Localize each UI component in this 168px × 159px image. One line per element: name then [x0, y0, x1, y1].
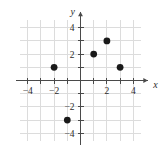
x-tick-label: −4: [23, 86, 33, 96]
coordinate-plane-svg: −4−224−4−224 xy: [0, 0, 168, 159]
x-tick-label: 4: [131, 86, 136, 96]
y-tick-label: −4: [64, 129, 74, 139]
x-tick-label: −2: [49, 86, 59, 96]
y-axis-arrow: [78, 12, 83, 17]
scatter-plot-figure: −4−224−4−224 xy: [0, 0, 168, 159]
x-tick-label: 2: [105, 86, 110, 96]
x-axis-arrow: [143, 78, 148, 83]
axes-layer: [16, 12, 148, 145]
y-axis-name: y: [70, 6, 76, 17]
data-point: [51, 64, 58, 71]
axis-names-layer: xy: [70, 6, 159, 90]
data-point: [104, 38, 111, 45]
data-point: [64, 117, 71, 124]
data-point: [117, 64, 124, 71]
data-point: [90, 51, 97, 58]
y-tick-label: −2: [64, 102, 74, 112]
x-axis-name: x: [152, 79, 158, 90]
y-tick-label: 2: [70, 50, 75, 60]
y-tick-label: 4: [70, 23, 75, 33]
